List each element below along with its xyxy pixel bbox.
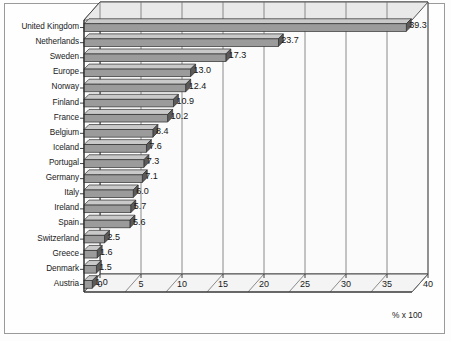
bar-value-label: 8.4 bbox=[156, 127, 169, 136]
tick-label: 0 bbox=[89, 280, 111, 289]
category-label: Italy bbox=[1, 189, 79, 197]
tick-label: 10 bbox=[171, 280, 193, 289]
tick-label: 15 bbox=[212, 280, 234, 289]
bar-value-label: 5.7 bbox=[134, 202, 147, 211]
bar bbox=[84, 185, 138, 198]
category-label: United Kingdom bbox=[1, 23, 79, 31]
bar-value-label: 5.6 bbox=[133, 218, 146, 227]
category-label: Netherlands bbox=[1, 38, 79, 46]
bar bbox=[84, 64, 196, 77]
bar bbox=[84, 140, 151, 153]
bar-value-label: 1.6 bbox=[100, 248, 113, 257]
tick-label: 5 bbox=[130, 280, 152, 289]
category-label: Iceland bbox=[1, 144, 79, 152]
tick-label: 30 bbox=[335, 280, 357, 289]
bar bbox=[84, 19, 411, 32]
bar bbox=[84, 200, 136, 213]
bar-value-label: 7.3 bbox=[147, 157, 160, 166]
category-label: Europe bbox=[1, 68, 79, 76]
chart-figure: United KingdomNetherlandsSwedenEuropeNor… bbox=[0, 0, 451, 341]
bar bbox=[84, 170, 147, 183]
bar-value-label: 2.5 bbox=[108, 233, 121, 242]
category-label: Austria bbox=[1, 280, 79, 288]
bar-value-label: 1.5 bbox=[99, 263, 112, 272]
bar-chart-plot bbox=[0, 0, 451, 341]
x-axis-title: % x 100 bbox=[392, 310, 422, 320]
tick-label: 40 bbox=[417, 280, 439, 289]
bar bbox=[84, 49, 231, 62]
bar bbox=[84, 125, 158, 138]
tick-label: 20 bbox=[253, 280, 275, 289]
category-label: Denmark bbox=[1, 265, 79, 273]
bar-value-label: 12.4 bbox=[189, 82, 207, 91]
bar-value-label: 23.7 bbox=[281, 36, 299, 45]
bar bbox=[84, 79, 191, 92]
category-label: Switzerland bbox=[1, 235, 79, 243]
bar bbox=[84, 94, 178, 107]
bar-value-label: 10.2 bbox=[171, 112, 189, 121]
category-label: Germany bbox=[1, 174, 79, 182]
bar bbox=[84, 109, 173, 122]
tick-label: 35 bbox=[376, 280, 398, 289]
category-label: Sweden bbox=[1, 53, 79, 61]
bar bbox=[84, 155, 149, 168]
bar-value-label: 7.6 bbox=[149, 142, 162, 151]
category-label: Portugal bbox=[1, 159, 79, 167]
category-label: Ireland bbox=[1, 204, 79, 212]
category-label: Greece bbox=[1, 250, 79, 258]
category-label: Spain bbox=[1, 219, 79, 227]
tick-label: 25 bbox=[294, 280, 316, 289]
bar-value-label: 17.3 bbox=[229, 51, 247, 60]
bar bbox=[84, 230, 110, 243]
category-label: France bbox=[1, 114, 79, 122]
bar bbox=[84, 215, 135, 228]
bar-value-label: 39.3 bbox=[409, 21, 427, 30]
category-label: Norway bbox=[1, 83, 79, 91]
bar-value-label: 13.0 bbox=[194, 66, 212, 75]
bar-value-label: 7.1 bbox=[145, 172, 158, 181]
bar-value-label: 10.9 bbox=[176, 97, 194, 106]
bar bbox=[84, 34, 283, 47]
category-label: Belgium bbox=[1, 129, 79, 137]
category-label: Finland bbox=[1, 99, 79, 107]
bar-value-label: 6.0 bbox=[136, 187, 149, 196]
